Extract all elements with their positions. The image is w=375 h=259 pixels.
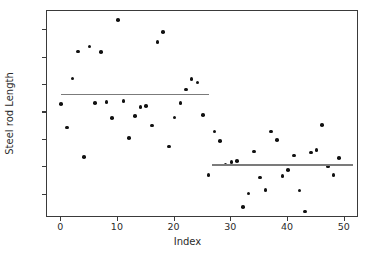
data-point <box>179 101 183 105</box>
data-point <box>264 188 268 192</box>
data-point <box>76 50 80 54</box>
data-point <box>286 168 290 172</box>
scatter-chart-figure: Steel rod Length 16171819202122 01020304… <box>0 0 375 259</box>
y-axis-title-text: Steel rod Length <box>4 72 15 155</box>
data-point <box>88 45 92 49</box>
x-axis-title: Index <box>0 236 375 247</box>
data-point <box>315 148 319 152</box>
data-point <box>184 88 188 92</box>
x-tick-label: 30 <box>224 221 236 232</box>
data-point <box>150 124 154 128</box>
data-point <box>247 192 251 196</box>
data-point <box>196 81 200 85</box>
segment-2-mean-line <box>212 164 354 166</box>
data-point <box>122 99 126 103</box>
data-point <box>281 174 285 178</box>
data-point <box>258 176 262 180</box>
data-point <box>337 156 341 160</box>
data-point <box>252 150 256 154</box>
data-point <box>275 138 279 142</box>
data-point <box>173 116 177 120</box>
data-point <box>320 123 324 127</box>
data-point <box>93 101 97 105</box>
data-point <box>201 113 205 117</box>
data-point <box>218 139 222 143</box>
data-point <box>71 77 75 81</box>
data-point <box>139 105 143 109</box>
data-point <box>127 136 131 140</box>
data-point <box>167 145 171 149</box>
data-point <box>59 102 63 106</box>
data-point <box>303 210 307 214</box>
x-tick-label: 20 <box>168 221 180 232</box>
data-point <box>133 114 137 118</box>
data-point <box>65 126 69 130</box>
data-point <box>298 189 302 193</box>
data-point <box>235 159 239 163</box>
data-point <box>241 205 245 209</box>
data-point <box>144 104 148 108</box>
x-tick-label: 10 <box>111 221 123 232</box>
x-tick-label: 50 <box>338 221 350 232</box>
data-point <box>190 77 194 81</box>
data-point <box>105 100 109 104</box>
data-point <box>207 173 211 177</box>
x-axis-title-text: Index <box>174 236 202 247</box>
plot-area <box>46 10 358 217</box>
data-point <box>116 18 120 22</box>
data-point <box>269 130 273 134</box>
segment-1-mean-line <box>61 94 208 96</box>
data-point <box>332 173 336 177</box>
data-point <box>309 151 313 155</box>
data-point <box>82 155 86 159</box>
data-point <box>213 130 217 134</box>
data-point <box>156 40 160 44</box>
data-point <box>292 154 296 158</box>
data-point <box>99 50 103 54</box>
x-tick-label: 40 <box>281 221 293 232</box>
data-point <box>161 30 165 34</box>
x-tick-label: 0 <box>57 221 63 232</box>
y-axis-title: Steel rod Length <box>2 10 16 217</box>
data-point <box>110 116 114 120</box>
